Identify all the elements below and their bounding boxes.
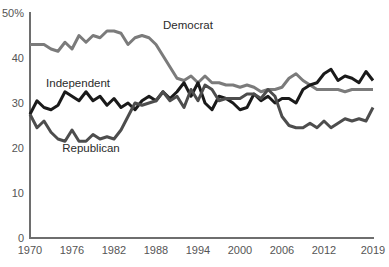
- x-axis-tick-2006: 2006: [270, 244, 294, 256]
- y-axis-tick-0: 0: [18, 232, 24, 244]
- series-line-republican: [30, 85, 373, 141]
- x-axis-tick-1994: 1994: [186, 244, 210, 256]
- x-axis-tick-2000: 2000: [228, 244, 252, 256]
- series-label-republican: Republican: [62, 142, 120, 154]
- y-axis-tick-10: 10: [12, 187, 24, 199]
- x-axis-tick-1982: 1982: [102, 244, 126, 256]
- y-axis-tick-labels: 50%403020100: [2, 7, 24, 244]
- y-axis-tick-40: 40: [12, 52, 24, 64]
- x-axis-tick-2012: 2012: [312, 244, 336, 256]
- y-axis-tick-30: 30: [12, 97, 24, 109]
- series-label-independent: Independent: [46, 77, 111, 89]
- chart-canvas: 50%403020100 197019761982198819942000200…: [0, 0, 389, 267]
- x-axis-tick-1988: 1988: [144, 244, 168, 256]
- x-axis-tick-2019: 2019: [361, 244, 385, 256]
- x-axis-tick-1976: 1976: [60, 244, 84, 256]
- party-affiliation-line-chart: 50%403020100 197019761982198819942000200…: [0, 0, 389, 267]
- x-axis-tick-1970: 1970: [18, 244, 42, 256]
- x-axis-tick-labels: 197019761982198819942000200620122019: [18, 244, 385, 256]
- y-axis-tick-20: 20: [12, 142, 24, 154]
- series-label-democrat: Democrat: [163, 19, 214, 31]
- y-axis-tick-50: 50%: [2, 7, 24, 19]
